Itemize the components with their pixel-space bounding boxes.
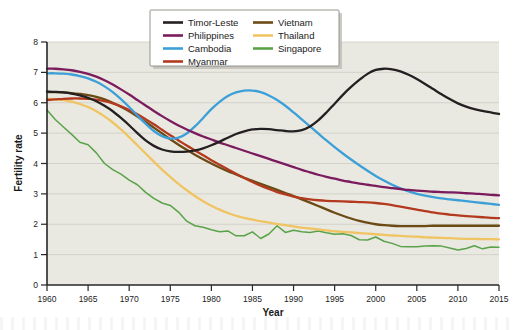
- legend: Timor-LesteVietnamPhilippinesThailandCam…: [150, 10, 342, 69]
- y-tick-label: 4: [33, 159, 38, 169]
- x-tick-label: 1975: [161, 294, 180, 304]
- x-tick-label: 2005: [407, 294, 426, 304]
- chart-canvas: 012345678 196019651970197519801985199019…: [0, 0, 517, 330]
- fertility-rate-chart-figure: 012345678 196019651970197519801985199019…: [0, 0, 517, 330]
- y-tick-label: 3: [33, 189, 38, 199]
- y-tick-label: 7: [33, 67, 38, 77]
- page-bottom-text-fragment: [0, 317, 517, 330]
- x-tick-label: 2010: [448, 294, 467, 304]
- x-tick-label: 1980: [202, 294, 221, 304]
- legend-label-vietnam: Vietnam: [278, 17, 313, 28]
- x-tick-label: 1960: [38, 294, 57, 304]
- y-axis-ticks: 012345678: [33, 37, 47, 290]
- y-tick-label: 6: [33, 98, 38, 108]
- x-tick-label: 1995: [325, 294, 344, 304]
- x-tick-label: 2015: [490, 294, 509, 304]
- x-tick-label: 2000: [366, 294, 385, 304]
- legend-label-philippines: Philippines: [188, 30, 234, 41]
- y-tick-label: 8: [33, 37, 38, 47]
- x-axis-ticks: 1960196519701975198019851990199520002005…: [38, 285, 509, 304]
- y-tick-label: 0: [33, 280, 38, 290]
- x-tick-label: 1965: [79, 294, 98, 304]
- y-tick-label: 5: [33, 128, 38, 138]
- x-tick-label: 1970: [120, 294, 139, 304]
- y-tick-label: 1: [33, 250, 38, 260]
- legend-label-timor-leste: Timor-Leste: [188, 17, 238, 28]
- x-tick-label: 1985: [243, 294, 262, 304]
- x-tick-label: 1990: [284, 294, 303, 304]
- legend-label-cambodia: Cambodia: [188, 43, 232, 54]
- legend-label-singapore: Singapore: [278, 43, 321, 54]
- y-axis-title: Fertility rate: [13, 134, 24, 192]
- y-tick-label: 2: [33, 219, 38, 229]
- legend-label-myanmar: Myanmar: [188, 56, 228, 67]
- legend-label-thailand: Thailand: [278, 30, 314, 41]
